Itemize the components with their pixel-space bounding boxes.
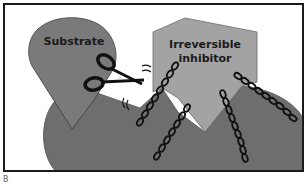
substrate-label: Substrate: [44, 35, 105, 48]
inhibitor-label-line1: Irreversible: [169, 38, 241, 51]
panel-label: B: [3, 175, 9, 184]
diagram-canvas: Substrate Irreversible inhibitor: [5, 5, 304, 172]
diagram-frame: Substrate Irreversible inhibitor: [3, 3, 304, 172]
inhibitor-label-line2: inhibitor: [178, 52, 232, 65]
